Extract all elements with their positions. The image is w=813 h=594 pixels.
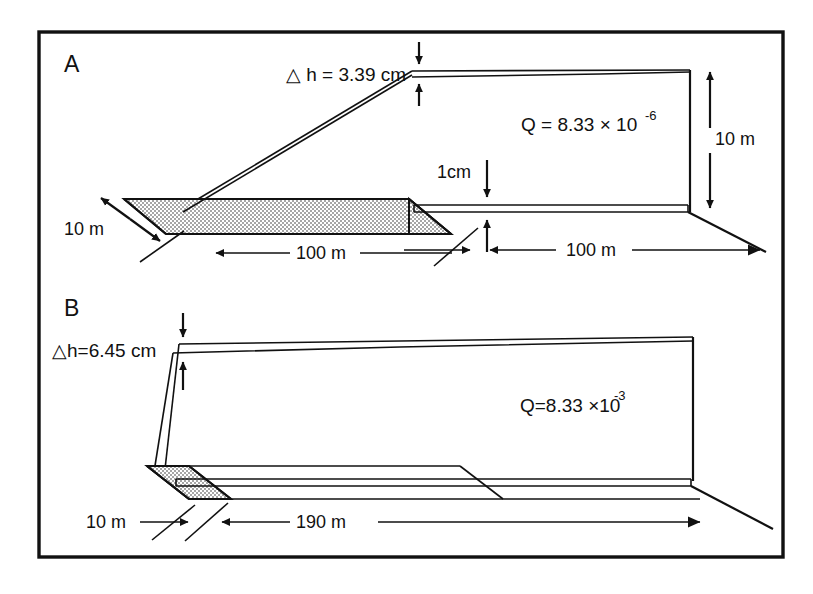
discharge-exponent-a: -6 (645, 108, 657, 123)
figure-svg: A △ h = 3.39 cm Q = 8.33 × 10 -6 1cm (0, 0, 813, 594)
length-label-a-left: 100 m (296, 243, 346, 263)
upper-conduit-a-top (412, 70, 690, 71)
discharge-label-b: Q=8.33 ×10 (520, 395, 620, 416)
width-label-a: 10 m (64, 219, 104, 239)
head-loss-label-b: △h=6.45 cm (52, 340, 156, 361)
panel-b-label: B (64, 295, 79, 321)
width-label-b: 10 m (86, 512, 126, 532)
length-label-a-right: 100 m (566, 240, 616, 260)
head-loss-label-a: △ h = 3.39 cm (286, 64, 406, 85)
discharge-exponent-b: -3 (614, 388, 626, 403)
aquifer-slab-a (124, 199, 451, 234)
height-label-a: 10 m (715, 129, 755, 149)
panel-a-label: A (64, 51, 80, 77)
length-label-b: 190 m (296, 512, 346, 532)
figure-root: A △ h = 3.39 cm Q = 8.33 × 10 -6 1cm (0, 0, 813, 594)
discharge-label-a: Q = 8.33 × 10 (521, 114, 637, 135)
thickness-label-a: 1cm (437, 162, 471, 182)
